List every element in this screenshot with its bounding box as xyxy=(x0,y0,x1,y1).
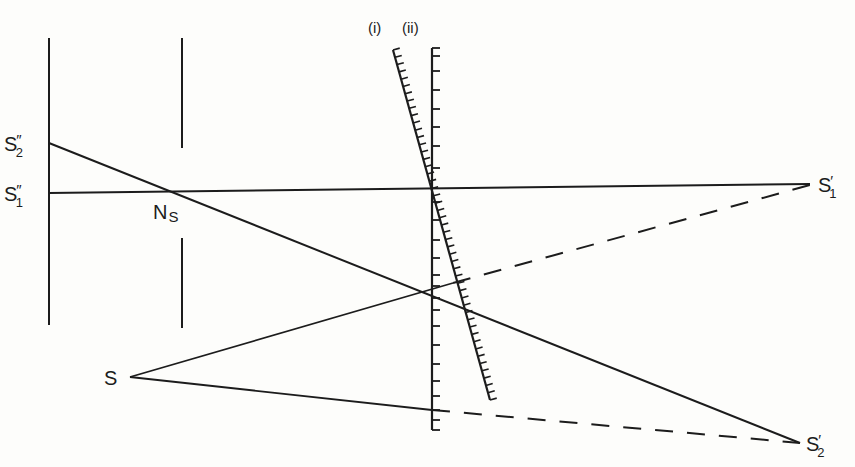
label-s2-double-prime: S″2 xyxy=(4,134,23,154)
scale-ii-ticks xyxy=(432,48,440,430)
scale-i-label: (i) xyxy=(368,20,381,35)
dashed-ray-to-s2p xyxy=(432,410,800,443)
ray-diagram xyxy=(0,0,855,467)
scale-i-ticks xyxy=(393,48,497,400)
scale-ii-label: (ii) xyxy=(402,20,419,35)
ray-s-upper xyxy=(130,283,453,377)
label-ns: NS xyxy=(153,202,178,222)
ray-s-lower xyxy=(130,377,432,410)
label-s1-double-prime: S″1 xyxy=(4,184,23,204)
label-s1-prime: S′1 xyxy=(818,175,836,195)
label-s2-prime: S′2 xyxy=(806,434,824,454)
dashed-ray-to-s1p xyxy=(453,185,810,283)
label-s: S xyxy=(104,368,117,388)
